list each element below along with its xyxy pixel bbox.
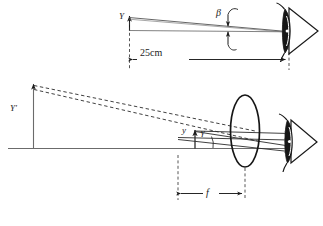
- ray-bottom-parallel: [195, 131, 289, 134]
- label-angle-beta: β: [216, 8, 221, 18]
- label-object-y: y: [182, 126, 186, 135]
- beta-leader-lower: [228, 45, 237, 51]
- bottom-diagram-group: [8, 84, 317, 200]
- label-angle-gamma: γ: [201, 128, 205, 137]
- ray-top-axis: [129, 31, 287, 32]
- virtual-ray-upper: [34, 86, 255, 132]
- ray-top-upper-second: [129, 19, 287, 32]
- virtual-ray-lower: [34, 90, 262, 143]
- eye-icon-top: [277, 3, 319, 62]
- label-focal-length-f: f: [206, 188, 209, 198]
- beta-leader-upper: [228, 9, 238, 15]
- eye-icon-bottom: [279, 114, 317, 172]
- label-image-Y-prime: Y′: [10, 104, 17, 113]
- optics-figure: Y β 25cm Y′ y γ f: [0, 0, 323, 226]
- top-diagram-group: [129, 3, 318, 70]
- figure-canvas: [0, 0, 323, 226]
- label-object-Y: Y: [119, 12, 124, 21]
- converging-lens-icon: [231, 95, 260, 167]
- ray-top-upper: [129, 18, 287, 32]
- label-distance-25cm: 25cm: [140, 48, 162, 58]
